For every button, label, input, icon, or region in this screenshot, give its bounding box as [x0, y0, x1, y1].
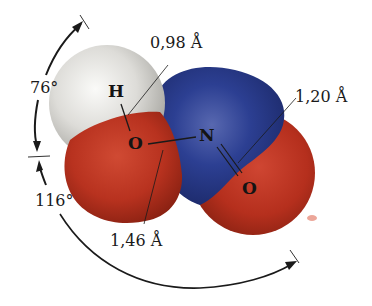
arrowhead-116-top: [36, 160, 43, 172]
bond-length-label-no-single: 1,46 Å: [110, 233, 162, 249]
angle-label-116: 116°: [35, 193, 74, 209]
angle-arc-76-lower: [35, 100, 38, 146]
atom-label-o1: O: [128, 135, 143, 152]
bond-length-label-oh: 0,98 Å: [150, 35, 202, 51]
angle-label-76: 76°: [30, 80, 58, 96]
atom-label-h: H: [108, 83, 124, 100]
atom-label-n: N: [199, 127, 215, 144]
atom-label-o2: O: [242, 180, 257, 197]
angle-arc-116-upper: [40, 168, 46, 185]
arrowhead-76-bottom: [33, 141, 41, 152]
tick-116-bottom: [290, 250, 299, 263]
tick-middle: [28, 156, 50, 157]
arrowhead-116-bottom: [285, 261, 297, 270]
bond-length-label-no-double: 1,20 Å: [295, 89, 347, 105]
oxygen-2-highlight: [307, 215, 317, 221]
